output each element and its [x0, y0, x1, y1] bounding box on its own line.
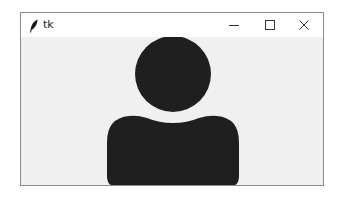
canvas-area	[21, 37, 323, 185]
minimize-icon	[229, 20, 239, 30]
user-silhouette-icon	[107, 37, 239, 185]
maximize-button[interactable]	[253, 13, 287, 37]
feather-icon	[29, 18, 39, 32]
close-icon	[299, 20, 309, 30]
maximize-icon	[265, 20, 275, 30]
tk-window: tk	[20, 12, 324, 186]
minimize-button[interactable]	[217, 13, 251, 37]
window-title: tk	[43, 18, 54, 31]
title-bar[interactable]: tk	[21, 13, 323, 37]
close-button[interactable]	[287, 13, 321, 37]
